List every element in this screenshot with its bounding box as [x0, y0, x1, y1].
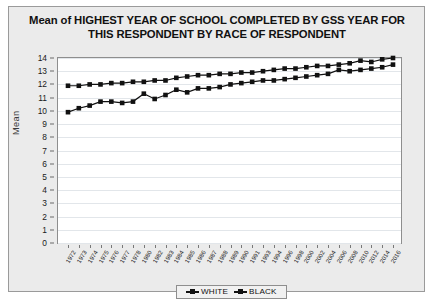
data-point-marker [98, 99, 103, 104]
data-point-marker [315, 64, 320, 69]
data-point-marker [207, 73, 212, 78]
data-point-marker [261, 69, 266, 74]
data-point-marker [261, 78, 266, 83]
data-point-marker [337, 62, 342, 67]
data-point-marker [77, 83, 82, 88]
y-tick-label: 12 [38, 79, 47, 89]
y-tick-mark [50, 150, 54, 151]
y-tick-label: 14 [38, 53, 47, 63]
data-point-marker [152, 97, 157, 102]
x-tick-mark [122, 245, 123, 248]
x-tick-mark [361, 245, 362, 248]
data-point-marker [109, 99, 114, 104]
y-tick-label: 1 [42, 225, 47, 235]
y-tick-mark [50, 163, 54, 164]
data-point-marker [228, 82, 233, 87]
chart-title-line-2: THIS RESPONDENT BY RACE OF RESPONDENT [19, 27, 415, 41]
y-tick-mark [50, 216, 54, 217]
x-tick-mark [317, 245, 318, 248]
data-point-marker [250, 79, 255, 84]
chart-title: Mean of HIGHEST YEAR OF SCHOOL COMPLETED… [19, 13, 415, 41]
data-point-marker [87, 103, 92, 108]
y-tick-mark [50, 58, 54, 59]
data-point-marker [326, 72, 331, 77]
x-tick-mark [285, 245, 286, 248]
y-tick-label: 8 [42, 132, 47, 142]
chart-panel: Mean of HIGHEST YEAR OF SCHOOL COMPLETED… [8, 6, 425, 292]
data-point-marker [347, 69, 352, 74]
x-tick-mark [198, 245, 199, 248]
data-point-marker [163, 93, 168, 98]
plot-area [57, 57, 402, 244]
y-axis-labels: 01234567891011121314 [9, 57, 55, 244]
x-tick-mark [101, 245, 102, 248]
x-tick-mark [263, 245, 264, 248]
legend-entry-black: BLACK [234, 287, 277, 296]
y-tick-label: 10 [38, 106, 47, 116]
data-point-marker [142, 79, 147, 84]
data-point-marker [282, 66, 287, 71]
x-tick-mark [133, 245, 134, 248]
y-tick-mark [50, 176, 54, 177]
y-tick-label: 9 [42, 119, 47, 129]
data-point-marker [347, 61, 352, 66]
y-tick-mark [50, 190, 54, 191]
x-tick-mark [155, 245, 156, 248]
data-point-marker [304, 65, 309, 70]
x-tick-mark [393, 245, 394, 248]
x-tick-mark [176, 245, 177, 248]
data-point-marker [282, 77, 287, 82]
data-point-marker [391, 62, 396, 67]
data-point-marker [131, 99, 136, 104]
y-tick-label: 7 [42, 146, 47, 156]
data-point-marker [369, 60, 374, 65]
data-point-marker [217, 85, 222, 90]
data-point-marker [304, 74, 309, 79]
y-tick-mark [50, 110, 54, 111]
data-point-marker [239, 70, 244, 75]
y-tick-mark [50, 84, 54, 85]
y-tick-mark [50, 97, 54, 98]
x-tick-mark [90, 245, 91, 248]
data-point-marker [174, 87, 179, 92]
x-tick-mark [68, 245, 69, 248]
data-point-marker [109, 81, 114, 86]
data-point-marker [337, 68, 342, 73]
legend-label: WHITE [201, 287, 228, 296]
data-point-marker [196, 86, 201, 91]
y-tick-label: 11 [38, 93, 47, 103]
data-point-marker [272, 68, 277, 73]
y-tick-label: 5 [42, 172, 47, 182]
chart-series-layer [58, 58, 401, 243]
legend-label: BLACK [249, 287, 277, 296]
y-tick-mark [50, 243, 54, 244]
data-point-marker [120, 81, 125, 86]
y-tick-mark [50, 229, 54, 230]
x-tick-mark [79, 245, 80, 248]
x-tick-mark [371, 245, 372, 248]
data-point-marker [196, 73, 201, 78]
data-point-marker [272, 78, 277, 83]
y-tick-label: 3 [42, 198, 47, 208]
data-point-marker [185, 74, 190, 79]
y-tick-label: 0 [42, 238, 47, 248]
x-tick-label: 1972 [64, 249, 77, 264]
data-point-marker [239, 81, 244, 86]
data-point-marker [98, 82, 103, 87]
x-tick-mark [252, 245, 253, 248]
chart-legend: WHITEBLACK [176, 285, 287, 299]
data-point-marker [217, 72, 222, 77]
x-tick-mark [241, 245, 242, 248]
data-point-marker [174, 76, 179, 81]
y-tick-mark [50, 137, 54, 138]
y-tick-label: 6 [42, 159, 47, 169]
legend-entry-white: WHITE [186, 287, 228, 296]
data-point-marker [207, 86, 212, 91]
y-tick-mark [50, 203, 54, 204]
data-point-marker [358, 58, 363, 63]
x-tick-mark [296, 245, 297, 248]
data-point-marker [185, 90, 190, 95]
data-point-marker [87, 82, 92, 87]
legend-marker-icon [186, 288, 199, 295]
data-point-marker [131, 79, 136, 84]
